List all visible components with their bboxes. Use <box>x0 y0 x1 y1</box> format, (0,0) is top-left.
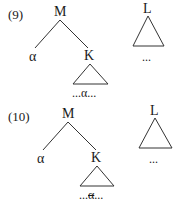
k-subtree-yield: ...α... <box>72 86 96 100</box>
k-subtree-triangle <box>80 166 114 186</box>
yield-suffix: ... <box>94 188 103 202</box>
node-l: L <box>150 104 159 118</box>
node-alpha: α <box>37 152 44 166</box>
node-m: M <box>54 5 66 19</box>
yield-prefix: ... <box>72 86 81 100</box>
node-k: K <box>84 49 94 63</box>
k-subtree-triangle <box>73 64 108 84</box>
l-subtree-triangle <box>139 118 172 148</box>
l-subtree-triangle <box>133 16 164 46</box>
node-m: M <box>62 107 74 121</box>
l-subtree-yield: ... <box>149 152 158 166</box>
example-number: (9) <box>8 8 23 22</box>
yield-prefix: ... <box>79 188 88 202</box>
node-l: L <box>143 2 152 16</box>
example-9: (9) M α K ...α... L ... <box>0 0 186 102</box>
node-alpha: α <box>29 50 36 64</box>
node-k: K <box>91 151 101 165</box>
example-number: (10) <box>8 110 30 124</box>
yield-suffix: ... <box>87 86 96 100</box>
l-subtree-yield: ... <box>142 50 151 64</box>
k-subtree-yield: ...α... <box>79 188 103 202</box>
example-10: (10) M α K ...α... L ... <box>0 102 186 204</box>
